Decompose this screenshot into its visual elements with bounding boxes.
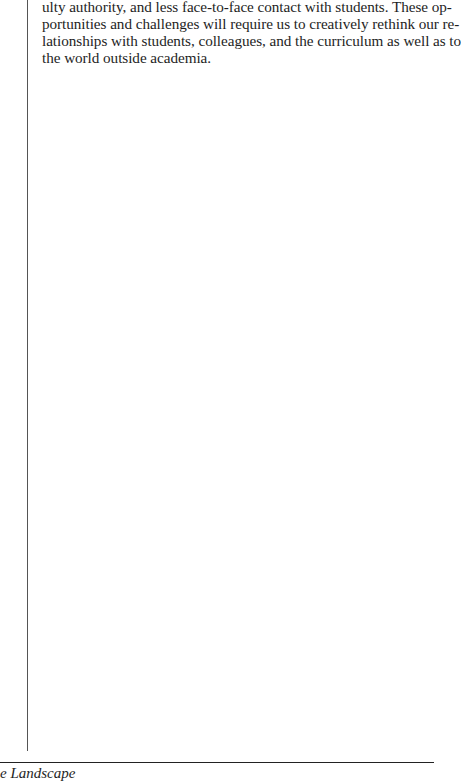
text-line: lationships with students, colleagues, a… — [42, 32, 431, 49]
text-line: the world outside academia. — [42, 49, 431, 66]
margin-rule — [27, 0, 28, 751]
body-paragraph: ulty authority, and less face-to-face co… — [42, 0, 431, 66]
footer-divider — [0, 762, 434, 763]
running-footer-title: e Landscape — [0, 764, 75, 781]
text-line: portunities and challenges will require … — [42, 15, 431, 32]
text-line: ulty authority, and less face-to-face co… — [42, 0, 431, 15]
